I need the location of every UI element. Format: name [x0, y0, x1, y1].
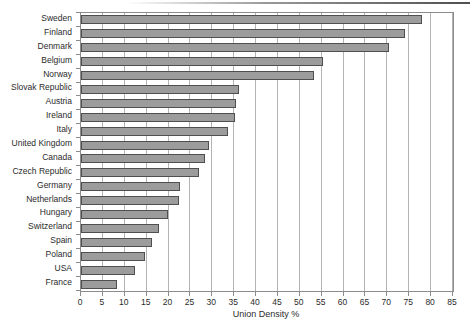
y-tick-mark	[76, 109, 80, 110]
category-label: Czech Republic	[0, 165, 76, 179]
y-tick-mark	[76, 179, 80, 180]
y-tick-mark	[76, 26, 80, 27]
x-tick-mark	[168, 292, 169, 296]
y-tick-mark	[76, 165, 80, 166]
x-tick-mark	[80, 292, 81, 296]
category-label: Netherlands	[0, 193, 76, 207]
gridline	[430, 13, 431, 291]
x-tick-label: 45	[272, 297, 281, 307]
category-label: Slovak Republic	[0, 81, 76, 95]
y-tick-mark	[76, 137, 80, 138]
x-tick-label: 75	[404, 297, 413, 307]
category-label: France	[0, 276, 76, 290]
bar	[81, 196, 179, 205]
x-tick-label: 20	[163, 297, 172, 307]
category-label: Belgium	[0, 54, 76, 68]
category-label: Hungary	[0, 206, 76, 220]
category-label: Italy	[0, 123, 76, 137]
y-tick-mark	[76, 276, 80, 277]
x-tick-mark	[189, 292, 190, 296]
x-tick-label: 30	[207, 297, 216, 307]
x-tick-mark	[233, 292, 234, 296]
x-tick-mark	[299, 292, 300, 296]
bar	[81, 154, 205, 163]
x-tick-label: 85	[447, 297, 456, 307]
category-label: Sweden	[0, 12, 76, 26]
x-tick-label: 25	[185, 297, 194, 307]
category-label: Norway	[0, 68, 76, 82]
union-density-bar-chart: SwedenFinlandDenmarkBelgiumNorwaySlovak …	[0, 0, 470, 324]
bar	[81, 15, 422, 24]
bar	[81, 71, 314, 80]
gridline	[408, 13, 409, 291]
y-tick-mark	[76, 54, 80, 55]
gridline	[233, 13, 234, 291]
x-tick-mark	[386, 292, 387, 296]
x-tick-mark	[430, 292, 431, 296]
bar	[81, 57, 323, 66]
gridline	[277, 13, 278, 291]
category-label: Denmark	[0, 40, 76, 54]
bar	[81, 85, 239, 94]
gridline	[452, 13, 453, 291]
gridline	[211, 13, 212, 291]
x-tick-label: 5	[100, 297, 105, 307]
bar	[81, 224, 159, 233]
y-tick-mark	[76, 193, 80, 194]
y-tick-mark	[76, 234, 80, 235]
bar	[81, 29, 405, 38]
gridline	[124, 13, 125, 291]
y-axis-category-labels: SwedenFinlandDenmarkBelgiumNorwaySlovak …	[0, 12, 76, 290]
y-tick-mark	[76, 68, 80, 69]
x-tick-mark	[452, 292, 453, 296]
category-label: Finland	[0, 26, 76, 40]
gridline	[386, 13, 387, 291]
y-tick-mark	[76, 248, 80, 249]
category-label: Switzerland	[0, 220, 76, 234]
bar	[81, 168, 199, 177]
x-tick-mark	[211, 292, 212, 296]
x-tick-mark	[255, 292, 256, 296]
y-tick-mark	[76, 12, 80, 13]
y-tick-mark	[76, 95, 80, 96]
bar	[81, 141, 209, 150]
x-tick-label: 65	[360, 297, 369, 307]
x-tick-label: 35	[228, 297, 237, 307]
x-tick-label: 40	[250, 297, 259, 307]
gridline	[299, 13, 300, 291]
category-label: Poland	[0, 248, 76, 262]
y-tick-mark	[76, 123, 80, 124]
category-label: Spain	[0, 234, 76, 248]
y-tick-mark	[76, 207, 80, 208]
x-tick-mark	[146, 292, 147, 296]
category-label: Canada	[0, 151, 76, 165]
bar	[81, 99, 236, 108]
bar	[81, 127, 228, 136]
bar	[81, 252, 145, 261]
bar	[81, 266, 135, 275]
x-tick-mark	[321, 292, 322, 296]
gridline	[255, 13, 256, 291]
gridline	[321, 13, 322, 291]
bar	[81, 280, 117, 289]
category-label: USA	[0, 262, 76, 276]
x-tick-mark	[124, 292, 125, 296]
category-label: Austria	[0, 95, 76, 109]
gridline	[189, 13, 190, 291]
x-tick-label: 80	[425, 297, 434, 307]
y-tick-mark	[76, 262, 80, 263]
x-tick-label: 50	[294, 297, 303, 307]
bar	[81, 238, 152, 247]
bar	[81, 43, 389, 52]
x-tick-label: 70	[382, 297, 391, 307]
x-tick-mark	[408, 292, 409, 296]
x-tick-mark	[343, 292, 344, 296]
y-tick-mark	[76, 290, 80, 291]
x-tick-mark	[102, 292, 103, 296]
page-rule-artifact	[126, 2, 470, 4]
y-tick-mark	[76, 221, 80, 222]
x-tick-label: 55	[316, 297, 325, 307]
y-tick-mark	[76, 151, 80, 152]
gridline	[102, 13, 103, 291]
bar	[81, 182, 180, 191]
